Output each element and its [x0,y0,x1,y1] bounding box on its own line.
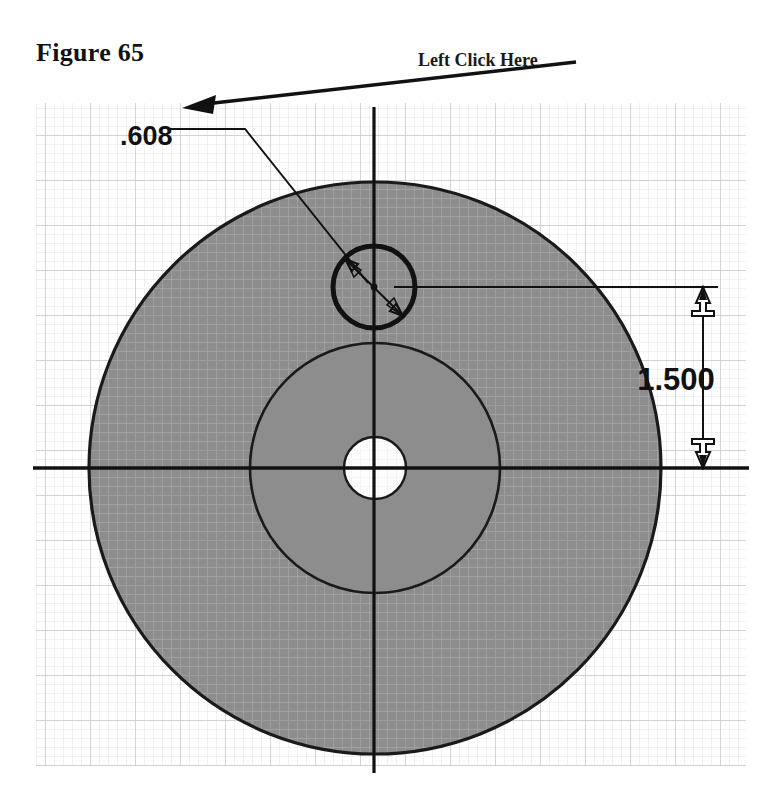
technical-drawing-canvas: .608 1.500 [0,0,781,804]
vertical-dimension-value: 1.500 [637,362,715,397]
figure-page: Figure 65 Left Click Here [0,0,781,804]
hole-diameter-value: .608 [120,121,173,151]
